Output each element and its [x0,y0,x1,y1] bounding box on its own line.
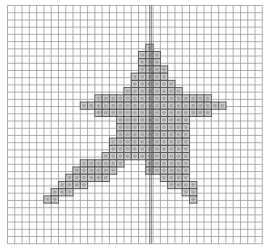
stitch-dot-icon [118,125,122,129]
stitch-cell [80,181,87,188]
stitch-cell [182,153,189,160]
stitch-dot-icon [162,133,166,137]
stitch-cell [73,174,80,181]
stitch-dot-icon [169,161,173,165]
stitch-cell [175,138,182,145]
stitch-cell [51,189,58,196]
stitch-cell [117,109,124,116]
stitch-cell [139,66,146,73]
stitch-cell [197,102,204,109]
stitch-dot-icon [104,176,108,180]
stitch-cell [175,145,182,152]
stitch-dot-icon [155,125,159,129]
stitch-dot-icon [191,96,195,100]
stitch-cell [175,167,182,174]
stitch-dot-icon [169,140,173,144]
stitch-dot-icon [140,147,144,151]
stitch-dot-icon [140,68,144,72]
stitch-dot-icon [155,161,159,165]
stitch-cell [160,109,167,116]
stitch-cell [175,131,182,138]
stitch-dot-icon [177,111,181,115]
stitch-cell [153,88,160,95]
stitch-cell [168,138,175,145]
stitch-cell [153,95,160,102]
stitch-dot-icon [118,111,122,115]
stitch-dot-icon [177,161,181,165]
stitch-cell [139,88,146,95]
stitch-cell [109,153,116,160]
stitch-dot-icon [140,111,144,115]
stitch-dot-icon [162,111,166,115]
stitch-cell [160,88,167,95]
stitch-cell [88,102,95,109]
stitch-dot-icon [111,147,115,151]
stitch-dot-icon [140,104,144,108]
stitch-dot-icon [177,176,181,180]
stitch-cell [182,167,189,174]
stitch-dot-icon [191,104,195,108]
stitch-cell [175,181,182,188]
stitch-cell [153,124,160,131]
stitch-dot-icon [126,140,130,144]
stitch-dot-icon [82,176,86,180]
stitch-cell [131,109,138,116]
stitch-cell [153,59,160,66]
stitch-dot-icon [162,140,166,144]
stitch-cell [153,138,160,145]
stitch-dot-icon [184,140,188,144]
stitch-cell [131,124,138,131]
stitch-cell [139,51,146,58]
stitch-dot-icon [133,82,137,86]
stitch-cell [124,153,131,160]
stitch-cell [102,102,109,109]
stitch-cell [182,116,189,123]
stitch-dot-icon [111,96,115,100]
stitch-cell [175,124,182,131]
stitch-dot-icon [169,89,173,93]
stitch-dot-icon [184,147,188,151]
stitch-dot-icon [133,111,137,115]
stitch-dot-icon [140,140,144,144]
stitch-cell [160,145,167,152]
stitch-cell [139,109,146,116]
stitch-cell [139,145,146,152]
stitch-dot-icon [97,169,101,173]
stitch-cell [139,153,146,160]
stitch-cell [131,145,138,152]
cross-stitch-pattern-chart [0,0,271,250]
stitch-dot-icon [191,198,195,202]
stitch-dot-icon [198,111,202,115]
stitch-cell [168,116,175,123]
stitch-cell [182,102,189,109]
stitch-dot-icon [140,60,144,64]
stitch-cell [168,174,175,181]
stitch-cell [139,116,146,123]
stitch-cell [160,174,167,181]
stitch-dot-icon [89,169,93,173]
stitch-dot-icon [104,104,108,108]
stitch-cell [153,73,160,80]
stitch-cell [153,80,160,87]
stitch-dot-icon [184,111,188,115]
stitch-dot-icon [82,104,86,108]
stitch-dot-icon [162,68,166,72]
stitch-cell [66,174,73,181]
stitch-dot-icon [162,89,166,93]
stitch-cell [168,102,175,109]
stitch-dot-icon [97,96,101,100]
stitch-cell [139,102,146,109]
stitch-cell [80,174,87,181]
stitch-dot-icon [97,176,101,180]
stitch-cell [153,102,160,109]
stitch-dot-icon [118,133,122,137]
stitch-dot-icon [155,147,159,151]
stitch-dot-icon [206,111,210,115]
stitch-dot-icon [60,183,64,187]
stitch-dot-icon [184,133,188,137]
stitch-dot-icon [177,133,181,137]
stitch-dot-icon [155,104,159,108]
stitch-cell [168,124,175,131]
stitch-cell [66,189,73,196]
stitch-dot-icon [177,118,181,122]
